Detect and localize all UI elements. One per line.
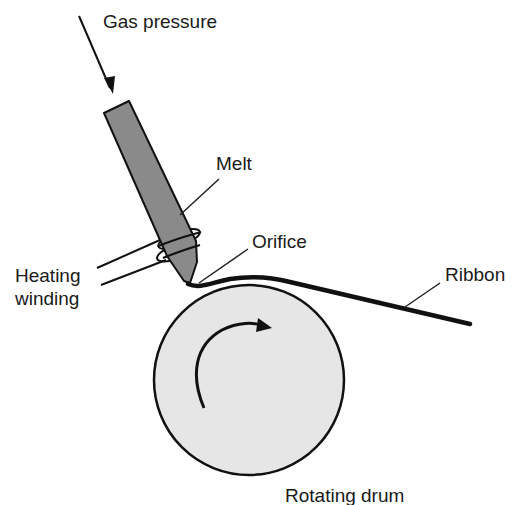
label-rotating-drum: Rotating drum	[285, 485, 404, 505]
label-winding: winding	[14, 288, 79, 309]
label-heating: Heating	[15, 265, 81, 286]
label-orifice: Orifice	[252, 231, 307, 252]
heating-winding-wires	[97, 240, 166, 285]
label-melt: Melt	[216, 153, 253, 174]
nozzle	[104, 101, 197, 283]
melt-spinning-diagram: Gas pressure Melt Orifice Heating windin…	[0, 0, 527, 505]
label-gas-pressure: Gas pressure	[103, 11, 217, 32]
label-ribbon: Ribbon	[445, 264, 505, 285]
rotating-drum	[154, 285, 344, 475]
